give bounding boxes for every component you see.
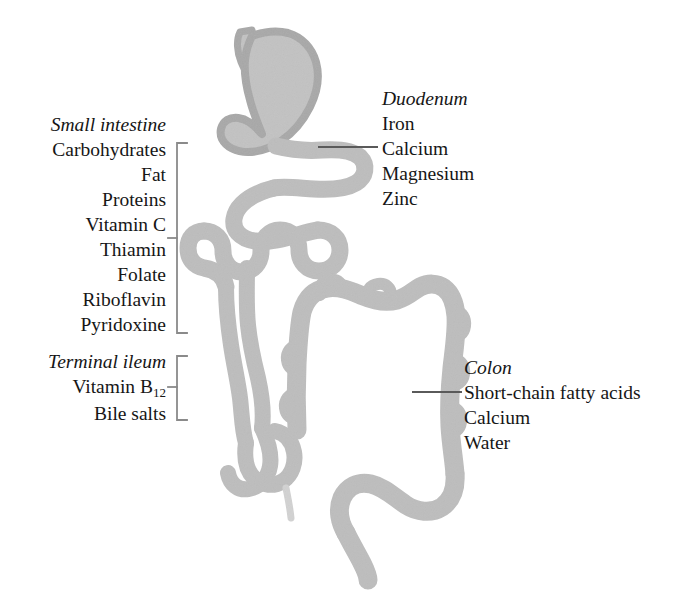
nutrient-absorption-diagram: Small intestine Carbohydrates Fat Protei… xyxy=(0,0,684,614)
label-item-folate: Folate xyxy=(0,262,166,287)
bracket-terminal-ileum xyxy=(168,356,187,420)
label-item-short-chain-fatty-acids: Short-chain fatty acids xyxy=(464,380,684,405)
label-item-calcium-duodenum: Calcium xyxy=(382,136,622,161)
label-item-proteins: Proteins xyxy=(0,187,166,212)
vitamin-b-text: Vitamin B xyxy=(72,376,153,397)
label-item-pyridoxine: Pyridoxine xyxy=(0,312,166,337)
label-item-bile-salts: Bile salts xyxy=(0,401,166,426)
label-heading-terminal-ileum: Terminal ileum xyxy=(0,349,166,374)
label-item-zinc: Zinc xyxy=(382,186,622,211)
label-block-small-intestine: Small intestine Carbohydrates Fat Protei… xyxy=(0,112,166,337)
label-item-riboflavin: Riboflavin xyxy=(0,287,166,312)
label-item-water: Water xyxy=(464,430,684,455)
vitamin-b-subscript: 12 xyxy=(153,385,166,400)
label-heading-duodenum: Duodenum xyxy=(382,86,622,111)
label-item-carbohydrates: Carbohydrates xyxy=(0,137,166,162)
label-item-iron: Iron xyxy=(382,111,622,136)
label-block-terminal-ileum: Terminal ileum Vitamin B12 Bile salts xyxy=(0,349,166,426)
label-item-magnesium: Magnesium xyxy=(382,161,622,186)
label-item-fat: Fat xyxy=(0,162,166,187)
label-heading-small-intestine: Small intestine xyxy=(0,112,166,137)
label-block-colon: Colon Short-chain fatty acids Calcium Wa… xyxy=(464,355,684,455)
label-item-vitamin-b12: Vitamin B12 xyxy=(0,374,166,401)
label-heading-colon: Colon xyxy=(464,355,684,380)
label-item-vitamin-c: Vitamin C xyxy=(0,212,166,237)
label-item-thiamin: Thiamin xyxy=(0,237,166,262)
label-block-duodenum: Duodenum Iron Calcium Magnesium Zinc xyxy=(382,86,622,211)
label-item-calcium-colon: Calcium xyxy=(464,405,684,430)
